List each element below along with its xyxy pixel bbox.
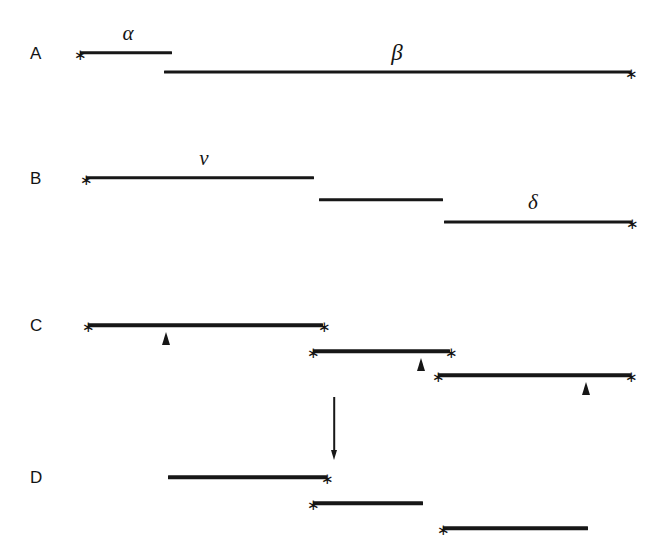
panel-letter-c: C [30, 317, 42, 334]
endpoint-star: ∗ [80, 172, 93, 187]
label-nu: ν [199, 148, 208, 169]
segment-c2 [313, 349, 450, 353]
panel-letter-a: A [30, 45, 41, 62]
segment-nu [86, 176, 314, 179]
endpoint-star: ∗ [321, 471, 334, 486]
caret-marker [582, 382, 590, 395]
segment-alpha [80, 51, 172, 54]
label-alpha: α [122, 23, 133, 44]
downward-arrow-head [331, 450, 337, 460]
panel-letter-b: B [30, 170, 41, 187]
endpoint-star: ∗ [432, 369, 445, 384]
caret-marker [162, 332, 170, 345]
endpoint-star: ∗ [307, 345, 320, 360]
panel-letter-d: D [30, 469, 42, 486]
endpoint-star: ∗ [82, 319, 95, 334]
endpoint-star: ∗ [626, 216, 639, 231]
endpoint-star: ∗ [307, 497, 320, 512]
endpoint-star: ∗ [625, 369, 638, 384]
endpoint-star: ∗ [318, 319, 331, 334]
label-delta: δ [528, 192, 538, 213]
segment-beta [164, 71, 631, 74]
segment-b-middle [319, 198, 443, 201]
endpoint-star: ∗ [437, 522, 450, 537]
caret-marker [417, 358, 425, 371]
segment-d3 [443, 526, 588, 530]
endpoint-star: ∗ [74, 47, 87, 62]
label-beta: β [391, 41, 402, 64]
segment-d2 [313, 501, 423, 505]
endpoint-star: ∗ [625, 66, 638, 81]
segment-delta [444, 220, 632, 223]
figure-canvas: Aαβ∗∗Bνδ∗∗C∗∗∗∗∗∗D∗∗∗ [0, 0, 658, 551]
downward-arrow-stem [333, 397, 335, 451]
segment-d1 [168, 475, 327, 479]
segment-c1 [88, 323, 323, 327]
endpoint-star: ∗ [445, 345, 458, 360]
segment-c3 [438, 373, 631, 377]
